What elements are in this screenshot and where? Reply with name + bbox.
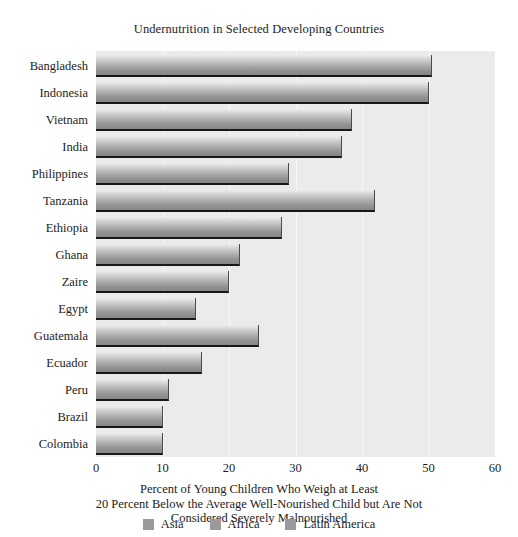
legend-swatch-icon — [210, 519, 221, 530]
chart-figure: Undernutrition in Selected Developing Co… — [0, 0, 518, 537]
plot-area — [96, 51, 495, 457]
y-axis-label-zaire: Zaire — [0, 274, 88, 290]
x-tick-30: 30 — [276, 461, 316, 476]
bar-row — [96, 325, 495, 347]
bar-egypt — [96, 298, 196, 320]
y-axis-label-philippines: Philippines — [0, 166, 88, 182]
bar-row — [96, 82, 495, 104]
bar-brazil — [96, 406, 163, 428]
bar-ecuador — [96, 352, 202, 374]
x-tick-60: 60 — [475, 461, 515, 476]
y-axis-label-colombia: Colombia — [0, 436, 88, 452]
x-axis-label-line-2: 20 Percent Below the Average Well-Nouris… — [0, 497, 518, 512]
x-tick-50: 50 — [409, 461, 449, 476]
y-axis-label-peru: Peru — [0, 382, 88, 398]
bar-peru — [96, 379, 169, 401]
bar-row — [96, 109, 495, 131]
x-tick-0: 0 — [76, 461, 116, 476]
x-tick-20: 20 — [209, 461, 249, 476]
legend-label: Asia — [161, 518, 184, 530]
bar-row — [96, 244, 495, 266]
bar-colombia — [96, 433, 163, 455]
bar-row — [96, 271, 495, 293]
bar-philippines — [96, 163, 289, 185]
bar-row — [96, 217, 495, 239]
y-axis-label-ghana: Ghana — [0, 247, 88, 263]
bar-tanzania — [96, 190, 375, 212]
bar-india — [96, 136, 342, 158]
legend-item-africa: Africa — [210, 518, 260, 530]
bar-row — [96, 190, 495, 212]
bar-indonesia — [96, 82, 429, 104]
bar-ethiopia — [96, 217, 282, 239]
legend-item-asia: Asia — [143, 518, 184, 530]
bar-row — [96, 433, 495, 455]
bar-row — [96, 298, 495, 320]
y-axis-labels: BangladeshIndonesiaVietnamIndiaPhilippin… — [0, 51, 88, 457]
bar-zaire — [96, 271, 229, 293]
y-axis-label-guatemala: Guatemala — [0, 328, 88, 344]
bar-vietnam — [96, 109, 352, 131]
legend-label: Africa — [228, 518, 260, 530]
legend-swatch-icon — [143, 519, 154, 530]
legend-item-latin-america: Latin America — [285, 518, 375, 530]
bar-row — [96, 55, 495, 77]
legend-label: Latin America — [303, 518, 375, 530]
y-axis-label-bangladesh: Bangladesh — [0, 58, 88, 74]
chart-title: Undernutrition in Selected Developing Co… — [0, 22, 518, 37]
legend-swatch-icon — [285, 519, 296, 530]
bar-row — [96, 379, 495, 401]
bar-bangladesh — [96, 55, 432, 77]
bar-ghana — [96, 244, 240, 266]
y-axis-label-egypt: Egypt — [0, 301, 88, 317]
bar-row — [96, 136, 495, 158]
y-axis-label-india: India — [0, 139, 88, 155]
y-axis-label-brazil: Brazil — [0, 409, 88, 425]
x-tick-40: 40 — [342, 461, 382, 476]
y-axis-label-ecuador: Ecuador — [0, 355, 88, 371]
x-axis-label-line-1: Percent of Young Children Who Weigh at L… — [0, 482, 518, 497]
y-axis-label-vietnam: Vietnam — [0, 112, 88, 128]
bar-row — [96, 163, 495, 185]
bar-row — [96, 406, 495, 428]
y-axis-label-indonesia: Indonesia — [0, 85, 88, 101]
y-axis-label-ethiopia: Ethiopia — [0, 220, 88, 236]
chart-legend: AsiaAfricaLatin America — [0, 518, 518, 530]
x-tick-10: 10 — [143, 461, 183, 476]
y-axis-label-tanzania: Tanzania — [0, 193, 88, 209]
bar-row — [96, 352, 495, 374]
bar-guatemala — [96, 325, 259, 347]
